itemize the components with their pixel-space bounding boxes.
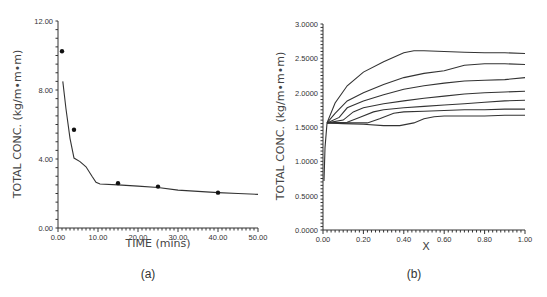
chart-a-panel-label: (a) <box>141 267 156 281</box>
x-tick-label: 0.00 <box>316 235 331 244</box>
data-point-marker <box>156 184 160 188</box>
x-tick-label: 10.00 <box>89 233 108 242</box>
y-tick-label: 0.0000 <box>295 226 318 235</box>
initial-rise-line <box>324 123 328 181</box>
data-point-marker <box>216 190 220 194</box>
y-tick-label: 0.00 <box>38 224 53 233</box>
y-tick-label: 8.00 <box>38 86 53 95</box>
chart-b-panel-label: (b) <box>407 267 422 281</box>
chart-b-x-axis-title: X <box>422 240 430 253</box>
x-tick-label: 0.40 <box>396 235 411 244</box>
chart-a-plot-area <box>60 49 258 195</box>
series-line-curve-1 <box>327 51 525 123</box>
data-point-marker <box>60 49 64 53</box>
x-tick-label: 40.00 <box>209 233 228 242</box>
y-tick-label: 12.00 <box>34 17 53 26</box>
y-tick-label: 2.0000 <box>295 89 318 98</box>
chart-a-axes <box>56 21 259 232</box>
chart-a-x-axis-title: TIME (mins) <box>125 237 191 250</box>
x-tick-label: 1.00 <box>518 235 533 244</box>
y-tick-label: 0.5000 <box>295 192 318 201</box>
y-tick-label: 4.00 <box>38 155 53 164</box>
chart-a-y-axis-title: TOTAL CONC. (kg/m•m•m) <box>11 50 24 199</box>
x-tick-label: 0.80 <box>477 235 492 244</box>
figure-canvas: 0.0010.0020.0030.0040.0050.000.004.008.0… <box>0 0 547 297</box>
series-line-model <box>63 81 258 194</box>
chart-panel-b: 0.000.200.400.600.801.000.00000.50001.00… <box>274 20 532 281</box>
chart-b-y-axis-title: TOTAL CONC. (kg/m•m•m) <box>274 52 287 201</box>
chart-panel-a: 0.0010.0020.0030.0040.0050.000.004.008.0… <box>11 17 267 281</box>
x-tick-label: 0.00 <box>51 233 66 242</box>
series-line-curve-7 <box>327 115 525 125</box>
chart-b-plot-area <box>324 51 526 181</box>
y-tick-label: 3.0000 <box>295 20 318 29</box>
chart-b-axes <box>321 24 526 234</box>
y-tick-label: 1.5000 <box>295 123 318 132</box>
x-tick-label: 0.20 <box>356 235 371 244</box>
y-tick-label: 1.0000 <box>295 157 318 166</box>
chart-b-tick-labels: 0.000.200.400.600.801.000.00000.50001.00… <box>295 20 532 244</box>
x-tick-label: 0.60 <box>437 235 452 244</box>
x-tick-label: 50.00 <box>249 233 268 242</box>
y-tick-label: 2.5000 <box>295 54 318 63</box>
series-line-curve-2 <box>327 64 525 123</box>
data-point-marker <box>116 181 120 185</box>
data-point-marker <box>72 127 76 131</box>
